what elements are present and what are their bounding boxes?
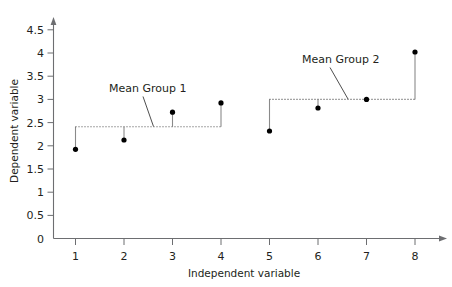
data-point-1	[73, 147, 78, 152]
y-tick-label-3: 3	[37, 93, 44, 106]
data-point-6	[315, 105, 320, 110]
y-tick-label-3.5: 3.5	[27, 70, 45, 83]
annotation-label-mean-group-2: Mean Group 2	[302, 53, 379, 66]
x-tick-label-1: 1	[72, 250, 79, 263]
x-tick-label-4: 4	[218, 250, 225, 263]
annotation-mean-group-2: Mean Group 2	[302, 53, 379, 99]
chart-figure: 4.5 4 3.5 3 2.5 2 1.5 1 0.5 0 Dependent …	[0, 0, 452, 287]
x-tick-label-3: 3	[169, 250, 176, 263]
data-point-8	[412, 49, 417, 54]
annotation-leader-line-1	[143, 97, 154, 127]
scatter-plot: 4.5 4 3.5 3 2.5 2 1.5 1 0.5 0 Dependent …	[0, 0, 452, 287]
annotation-leader-line-2	[330, 68, 348, 100]
annotation-label-mean-group-1: Mean Group 1	[109, 82, 186, 95]
x-tick-label-8: 8	[412, 250, 419, 263]
y-axis-title: Dependent variable	[8, 79, 20, 183]
x-tick-label-5: 5	[266, 250, 273, 263]
x-tick-label-2: 2	[121, 250, 128, 263]
x-axis-title: Independent variable	[188, 267, 300, 279]
x-tick-label-7: 7	[363, 250, 370, 263]
y-tick-label-4.5: 4.5	[27, 24, 45, 37]
data-point-2	[121, 137, 126, 142]
data-point-7	[364, 97, 369, 102]
data-point-3	[170, 110, 175, 115]
data-point-4	[218, 100, 223, 105]
series-group-1	[73, 100, 224, 152]
y-axis: 4.5 4 3.5 3 2.5 2 1.5 1 0.5 0 Dependent …	[8, 17, 56, 246]
y-tick-label-1.5: 1.5	[27, 163, 45, 176]
y-tick-label-2: 2	[37, 140, 44, 153]
y-tick-label-0: 0	[37, 233, 44, 246]
annotation-mean-group-1: Mean Group 1	[109, 82, 186, 127]
x-axis-arrow-icon	[439, 236, 447, 242]
data-point-5	[267, 128, 272, 133]
x-tick-label-6: 6	[315, 250, 322, 263]
y-tick-label-2.5: 2.5	[27, 117, 45, 130]
y-tick-label-0.5: 0.5	[27, 209, 45, 222]
y-tick-label-4: 4	[37, 47, 44, 60]
y-tick-label-1: 1	[37, 186, 44, 199]
x-axis: 1 2 3 4 5 6 7 8 Independent variable	[54, 236, 448, 279]
y-axis-arrow-icon	[51, 17, 57, 25]
